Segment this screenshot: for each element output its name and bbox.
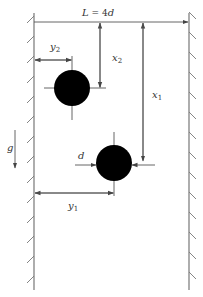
- channel-diagram: L = 4d x2 x1 y2 d: [0, 0, 203, 297]
- right-wall: [189, 12, 196, 290]
- diameter-label: d: [78, 150, 84, 161]
- y2-label: y2: [49, 41, 60, 54]
- left-wall: [27, 13, 34, 290]
- x1-dimension: x1: [143, 23, 162, 161]
- x1-label: x1: [152, 89, 162, 102]
- y1-label: y1: [67, 200, 78, 213]
- particle-1: [96, 132, 132, 196]
- x2-dimension: x2: [100, 23, 122, 88]
- gravity-arrow: g: [7, 130, 15, 168]
- width-label: L = 4d: [81, 7, 114, 18]
- y1-dimension: y1: [35, 193, 114, 213]
- width-dimension: L = 4d: [34, 7, 188, 22]
- gravity-label: g: [7, 142, 13, 153]
- y2-dimension: y2: [35, 41, 72, 60]
- particle-2: [44, 56, 106, 120]
- x2-label: x2: [112, 52, 122, 65]
